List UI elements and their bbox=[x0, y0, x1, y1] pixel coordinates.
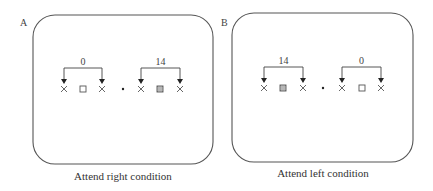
cue-bracket bbox=[64, 68, 102, 80]
stimulus-group-right: 14 bbox=[138, 56, 183, 92]
cue-bracket bbox=[342, 67, 381, 79]
arrow-down-icon bbox=[300, 78, 306, 83]
open-square-icon bbox=[359, 85, 365, 91]
x-mark-icon bbox=[300, 85, 306, 91]
stimulus-groups-b: 140 bbox=[261, 55, 384, 91]
x-mark-icon bbox=[261, 85, 267, 91]
arrow-down-icon bbox=[378, 78, 384, 83]
arrow-down-icon bbox=[339, 78, 345, 83]
arrow-down-icon bbox=[99, 79, 105, 84]
fixation-dot-a bbox=[122, 88, 124, 90]
panel-letter-b: B bbox=[221, 17, 228, 28]
x-mark-icon bbox=[138, 86, 144, 92]
fixation-dot-b bbox=[322, 87, 324, 89]
hatched-square-icon bbox=[280, 85, 286, 91]
open-square-icon bbox=[80, 86, 86, 92]
panel-attend-left: B 140 Attend left condition bbox=[221, 13, 413, 179]
arrow-down-icon bbox=[177, 79, 183, 84]
cue-value-label: 0 bbox=[359, 55, 364, 66]
arrow-down-icon bbox=[261, 78, 267, 83]
arrow-down-icon bbox=[138, 79, 144, 84]
caption-attend-left: Attend left condition bbox=[277, 167, 369, 179]
arrow-down-icon bbox=[61, 79, 67, 84]
attention-condition-diagram: A 014 Attend right condition B 140 Atten… bbox=[0, 0, 433, 191]
stimulus-groups-a: 014 bbox=[61, 56, 183, 92]
stimulus-group-right: 0 bbox=[339, 55, 384, 91]
cue-bracket bbox=[264, 67, 303, 79]
cue-bracket bbox=[141, 68, 180, 80]
cue-value-label: 14 bbox=[156, 56, 166, 67]
panel-letter-a: A bbox=[20, 17, 28, 28]
caption-attend-right: Attend right condition bbox=[74, 170, 172, 182]
x-mark-icon bbox=[99, 86, 105, 92]
hatched-square-icon bbox=[157, 86, 163, 92]
stimulus-group-left: 14 bbox=[261, 55, 306, 91]
x-mark-icon bbox=[177, 86, 183, 92]
cue-value-label: 14 bbox=[279, 55, 289, 66]
x-mark-icon bbox=[378, 85, 384, 91]
cue-value-label: 0 bbox=[81, 56, 86, 67]
x-mark-icon bbox=[339, 85, 345, 91]
stimulus-group-left: 0 bbox=[61, 56, 105, 92]
x-mark-icon bbox=[61, 86, 67, 92]
panel-attend-right: A 014 Attend right condition bbox=[20, 15, 213, 182]
